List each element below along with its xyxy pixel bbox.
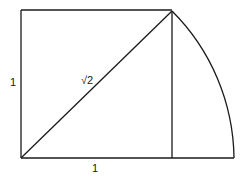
radius-arc	[172, 11, 234, 158]
label-diagonal: √2	[81, 74, 93, 86]
label-side-left: 1	[10, 76, 16, 88]
label-side-bottom: 1	[92, 162, 98, 174]
diagonal-line	[21, 11, 172, 158]
sqrt2-diagram: 1 1 √2	[0, 0, 245, 180]
